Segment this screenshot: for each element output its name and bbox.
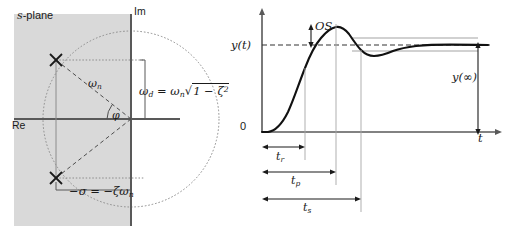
time-axis-label: t <box>478 133 483 145</box>
settling-time-label: ts <box>303 202 311 214</box>
omega-n-subscript: n <box>97 82 102 91</box>
sigma-formula: −σ = −ζωn <box>69 186 134 199</box>
omega-n-symbol: ω <box>88 77 97 90</box>
omega-d-symbol: ω <box>139 84 148 98</box>
sigma-rhs: −ζω <box>103 184 128 198</box>
real-axis-label: Re <box>12 120 25 131</box>
phi-angle-label: φ <box>112 110 120 121</box>
peak-time-dimension <box>262 169 336 174</box>
peak-time-subscript: p <box>295 179 300 188</box>
omega-n-label: ωn <box>88 78 102 90</box>
steady-state-label: y(∞) <box>452 72 477 84</box>
sigma-lhs: −σ <box>69 184 87 198</box>
steady-state-dimension <box>475 42 480 135</box>
s-plane-label: s-plane <box>17 10 53 21</box>
omega-d-formula: ωd = ωn√1 − ζ2 <box>139 86 229 99</box>
settling-time-dimension <box>262 196 361 201</box>
sigma-rhs-subscript: n <box>129 190 134 199</box>
settling-time-subscript: s <box>307 206 311 215</box>
imaginary-axis-label: Im <box>134 6 146 17</box>
omega-d-equals: = <box>153 84 170 98</box>
sigma-equals: = <box>87 184 104 198</box>
radicand-exponent: 2 <box>224 85 229 94</box>
radicand-group: 1 − ζ2 <box>192 83 229 98</box>
figure-root: s-plane Im Re ωn φ ωd = ωn√1 − ζ2 −σ = −… <box>0 0 515 242</box>
omega-d-rhs-omega: ω <box>170 84 179 98</box>
origin-label: 0 <box>240 121 246 132</box>
y-axis-arrowhead <box>259 8 265 15</box>
t-axis-arrowhead <box>495 129 502 135</box>
rise-time-subscript: r <box>280 155 284 164</box>
rise-time-dimension <box>262 144 305 149</box>
s-plane-suffix: -plane <box>23 9 54 21</box>
rise-time-label: tr <box>276 151 284 163</box>
figure-canvas <box>0 0 515 242</box>
radicand-body: 1 − ζ <box>193 84 224 98</box>
overshoot-label: OS <box>315 21 332 33</box>
output-signal-label: y(t) <box>231 40 251 52</box>
peak-time-label: tp <box>291 175 300 187</box>
